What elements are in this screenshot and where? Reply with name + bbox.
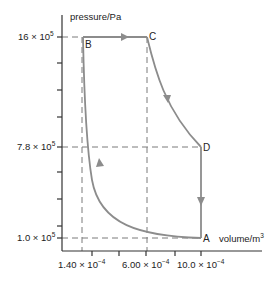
x-tick-label-6.00e-4: 6.00 × 10−4 [122, 258, 170, 270]
pv-diagram: pressure/Pa volume/m3 16 × 105 7.8 × 105… [0, 0, 276, 289]
y-axis-label: pressure/Pa [70, 11, 122, 22]
x-tick-label-1.40e-4: 1.40 × 10−4 [58, 258, 106, 270]
arrow-down-right-icon [163, 95, 171, 103]
x-tick-label-10.0e-4: 10.0 × 10−4 [177, 258, 225, 270]
y-tick-label-7.8e5: 7.8 × 105 [17, 140, 56, 152]
x-axis-label: volume/m3 [219, 232, 264, 244]
y-tick-label-16e5: 16 × 105 [18, 30, 54, 42]
cycle [83, 37, 201, 238]
point-label-b: B [85, 39, 92, 50]
arrow-right-icon [121, 33, 129, 41]
point-label-c: C [149, 31, 156, 42]
dashed-guides [62, 37, 201, 251]
arrows [96, 33, 205, 206]
y-tick-label-1.0e5: 1.0 × 105 [17, 231, 56, 243]
point-label-d: D [203, 142, 210, 153]
process-a-to-b [83, 37, 201, 238]
point-label-a: A [203, 233, 210, 244]
arrow-down-icon [197, 197, 205, 206]
process-c-to-d [147, 37, 201, 147]
arrow-up-icon [96, 158, 104, 167]
